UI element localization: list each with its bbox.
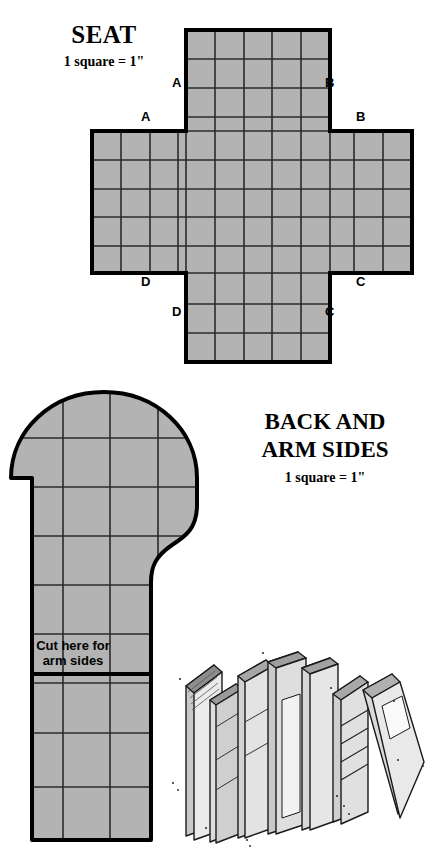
seat-marker-a-lower: A (141, 110, 150, 123)
seat-marker-b-lower: B (356, 110, 365, 123)
back-arm-title-line1: BACK AND (222, 408, 428, 436)
pattern-sheet: SEAT 1 square = 1" (0, 0, 439, 865)
seat-title: SEAT (34, 22, 174, 48)
back-arm-scale-note: 1 square = 1" (222, 470, 428, 486)
cut-here-label: Cut here for arm sides (14, 639, 132, 668)
back-arm-title-line2: ARM SIDES (222, 436, 428, 464)
seat-marker-d-lower: D (172, 305, 181, 318)
seat-marker-d-upper: D (141, 275, 150, 288)
seat-scale-note: 1 square = 1" (24, 54, 184, 70)
back-arm-title: BACK AND ARM SIDES (222, 408, 428, 464)
seat-marker-b-upper: B (325, 76, 334, 89)
seat-marker-c-lower: C (325, 305, 334, 318)
books-illustration-graphic (172, 652, 424, 847)
seat-marker-a-upper: A (172, 76, 181, 89)
seat-marker-c-upper: C (356, 275, 365, 288)
